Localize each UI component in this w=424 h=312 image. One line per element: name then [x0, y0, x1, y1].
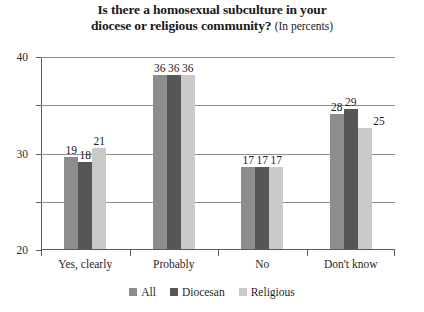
bar-diocesan[interactable]: 36 [167, 75, 181, 249]
x-axis-tick [130, 250, 131, 256]
bar-all[interactable]: 28 [330, 114, 344, 249]
bar-value-label: 29 [345, 96, 357, 108]
bar-value-label: 21 [94, 135, 106, 147]
bar-value-label: 25 [373, 115, 385, 127]
legend-item-diocesan[interactable]: Diocesan [170, 286, 225, 298]
bar-diocesan[interactable]: 18 [78, 162, 92, 249]
bar-value-label: 17 [271, 154, 283, 166]
y-axis-tick-label: 30 [17, 148, 29, 160]
bar-value-label: 28 [331, 101, 343, 113]
bar-value-label: 19 [66, 144, 78, 156]
bar-value-label: 36 [168, 62, 180, 74]
chart-legend: AllDiocesanReligious [0, 286, 424, 298]
y-axis-tick: 20 [36, 154, 41, 155]
bar-religious[interactable]: 17 [269, 167, 283, 249]
x-axis-tick [218, 250, 219, 256]
legend-swatch-icon [129, 288, 137, 296]
bar-group: 171717 [241, 57, 283, 249]
x-axis-category-label: Yes, clearly [41, 258, 130, 270]
x-axis-tick [394, 250, 395, 256]
bar-group-bars: 363636 [153, 75, 195, 249]
y-axis-tick-label: 40 [17, 51, 29, 63]
chart-title-units: (In percents) [275, 20, 333, 32]
legend-swatch-icon [239, 288, 247, 296]
legend-item-religious[interactable]: Religious [239, 286, 295, 298]
bar-all[interactable]: 19 [64, 157, 78, 249]
bar-diocesan[interactable]: 29 [344, 109, 358, 249]
x-axis-category-label: Don't know [307, 258, 396, 270]
bar-group: 191821 [64, 57, 106, 249]
x-axis-category-label: Probably [130, 258, 219, 270]
legend-item-all[interactable]: All [129, 286, 156, 298]
chart-title-line-1: Is there a homosexual subculture in your [0, 2, 424, 18]
bar-value-label: 18 [80, 149, 92, 161]
y-axis-tick: 30 [36, 105, 41, 106]
legend-label: Diocesan [182, 286, 225, 298]
x-axis-tick [41, 250, 42, 256]
bar-group-bars: 171717 [241, 167, 283, 249]
x-axis-category-label: No [218, 258, 307, 270]
bar-value-label: 17 [257, 154, 269, 166]
bar-all[interactable]: 36 [153, 75, 167, 249]
bar-group-bars: 282925 [330, 109, 372, 249]
bar-religious[interactable]: 36 [181, 75, 195, 249]
bar-value-label: 36 [154, 62, 166, 74]
legend-swatch-icon [170, 288, 178, 296]
chart-title-line-2-text: diocese or religious community? [91, 18, 271, 33]
legend-label: All [141, 286, 156, 298]
bar-religious[interactable]: 21 [92, 148, 106, 249]
y-axis-tick-label: 20 [17, 244, 29, 256]
bar-religious[interactable]: 25 [358, 128, 372, 249]
chart-title-line-2: diocese or religious community? (In perc… [0, 18, 424, 34]
y-axis-tick: 10 [36, 202, 41, 203]
legend-label: Religious [251, 286, 295, 298]
bar-group: 363636 [153, 57, 195, 249]
y-axis-tick: 40 [36, 57, 41, 58]
bar-value-label: 17 [243, 154, 255, 166]
bar-value-label: 36 [182, 62, 194, 74]
x-axis-tick [307, 250, 308, 256]
bar-group-bars: 191821 [64, 148, 106, 249]
bar-group: 282925 [330, 57, 372, 249]
bar-all[interactable]: 17 [241, 167, 255, 249]
plot-area: 010203040 191821363636171717282925 [41, 57, 395, 250]
chart-title: Is there a homosexual subculture in your… [0, 2, 424, 34]
bar-diocesan[interactable]: 17 [255, 167, 269, 249]
